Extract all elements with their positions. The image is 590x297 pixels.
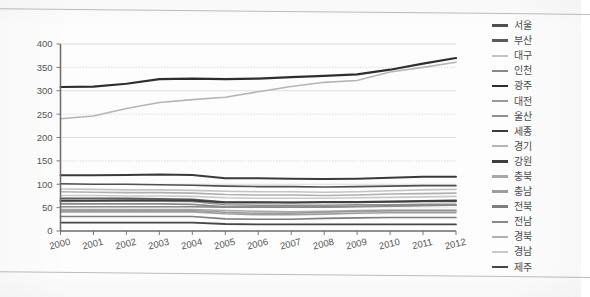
legend-swatch-icon: [492, 190, 508, 192]
x-tick-label: 2003: [147, 236, 170, 251]
legend-label: 강원: [514, 156, 532, 167]
x-axis-ticks: 2000200120022003200420052006200720082009…: [48, 231, 467, 251]
legend-swatch-icon: [492, 266, 508, 268]
legend-swatch-icon: [492, 160, 508, 162]
y-tick-label: 400: [37, 38, 53, 49]
legend-swatch-icon: [492, 100, 508, 102]
legend-swatch-icon: [492, 70, 508, 72]
x-tick-label: 2000: [48, 236, 71, 251]
legend-label: 경기: [514, 141, 532, 152]
legend-item-서울[interactable]: 서울: [492, 18, 580, 33]
y-tick-label: 100: [37, 179, 53, 190]
x-tick-label: 2002: [114, 236, 137, 251]
legend-label: 광주: [514, 80, 532, 91]
legend-label: 전북: [514, 201, 532, 212]
legend-label: 인천: [514, 65, 532, 76]
x-tick-label: 2006: [246, 236, 269, 251]
y-tick-label: 250: [37, 109, 53, 120]
legend-label: 대전: [514, 96, 532, 107]
legend: 서울부산대구인천광주대전울산세종경기강원충북충남전북전남경북경남제주: [492, 18, 580, 275]
series-line-제주: [61, 223, 457, 225]
legend-swatch-icon: [492, 39, 508, 41]
y-tick-label: 0: [47, 225, 52, 236]
legend-label: 부산: [514, 35, 532, 46]
y-tick-label: 150: [37, 155, 53, 166]
x-tick-label: 2008: [312, 236, 335, 251]
legend-swatch-icon: [492, 251, 508, 253]
legend-item-충북[interactable]: 충북: [492, 169, 580, 184]
x-tick-label: 2009: [345, 236, 368, 251]
legend-item-광주[interactable]: 광주: [492, 78, 580, 93]
legend-item-경북[interactable]: 경북: [492, 229, 580, 244]
legend-label: 대구: [514, 50, 532, 61]
legend-item-인천[interactable]: 인천: [492, 63, 580, 78]
legend-label: 울산: [514, 111, 532, 122]
legend-swatch-icon: [492, 130, 508, 132]
legend-item-경기[interactable]: 경기: [492, 139, 580, 154]
x-tick-label: 2011: [411, 236, 433, 251]
series-line-대구: [61, 189, 457, 192]
legend-label: 서울: [514, 20, 532, 31]
legend-label: 제주: [514, 262, 532, 273]
legend-label: 충남: [514, 186, 532, 197]
x-tick-label: 2004: [180, 236, 203, 251]
legend-swatch-icon: [492, 55, 508, 57]
legend-label: 전남: [514, 216, 532, 227]
legend-label: 경남: [514, 246, 532, 257]
y-tick-label: 50: [42, 202, 53, 213]
legend-swatch-icon: [492, 205, 508, 207]
legend-swatch-icon: [492, 175, 508, 177]
series-line-광주: [61, 58, 457, 87]
legend-item-충남[interactable]: 충남: [492, 184, 580, 199]
series-line-전북: [61, 217, 457, 220]
legend-label: 세종: [514, 126, 532, 137]
legend-swatch-icon: [492, 236, 508, 238]
x-tick-label: 2007: [279, 236, 302, 251]
legend-item-대전[interactable]: 대전: [492, 93, 580, 108]
legend-swatch-icon: [492, 85, 508, 87]
y-tick-label: 350: [37, 62, 53, 73]
x-tick-label: 2010: [378, 236, 401, 251]
x-tick-label: 2012: [444, 236, 467, 251]
x-tick-label: 2005: [213, 236, 236, 251]
y-tick-label: 200: [37, 132, 53, 143]
legend-item-강원[interactable]: 강원: [492, 154, 580, 169]
legend-swatch-icon: [492, 115, 508, 117]
legend-item-대구[interactable]: 대구: [492, 48, 580, 63]
legend-swatch-icon: [492, 24, 508, 26]
legend-item-세종[interactable]: 세종: [492, 124, 580, 139]
legend-swatch-icon: [492, 221, 508, 223]
legend-label: 충북: [514, 171, 532, 182]
legend-label: 경북: [514, 231, 532, 242]
y-axis-ticks: 050100150200250300350400: [37, 38, 61, 236]
legend-item-전북[interactable]: 전북: [492, 199, 580, 214]
series-line-세종: [61, 174, 457, 179]
legend-item-전남[interactable]: 전남: [492, 214, 580, 229]
legend-item-부산[interactable]: 부산: [492, 33, 580, 48]
x-tick-label: 2001: [81, 236, 104, 251]
y-tick-label: 300: [37, 85, 53, 96]
legend-item-경남[interactable]: 경남: [492, 244, 580, 259]
legend-swatch-icon: [492, 145, 508, 147]
legend-item-제주[interactable]: 제주: [492, 260, 580, 275]
legend-item-울산[interactable]: 울산: [492, 109, 580, 124]
series-lines: [61, 58, 457, 224]
